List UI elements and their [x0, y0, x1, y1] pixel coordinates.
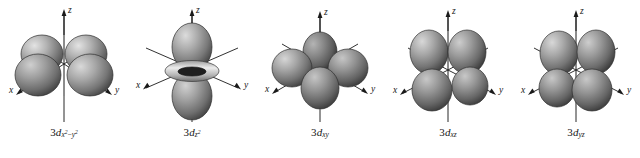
orbital-drawing-3d-xy: x y z [256, 0, 384, 128]
axis-label-z: z [195, 5, 200, 15]
axis-label-x: x [8, 85, 14, 95]
orbital-drawing-3d-xz: x y z [384, 0, 512, 128]
orbital-label-3d-x2-y2: 3dx2−y2 [0, 126, 128, 139]
axis-label-y: y [370, 84, 376, 94]
axis-label-x: x [264, 84, 270, 94]
axis-label-y: y [114, 85, 120, 95]
orbital-drawing-3d-x2-y2: x y z [0, 0, 128, 128]
orbital-drawing-3d-z2: x y z [128, 0, 256, 128]
orbital-lobe [540, 31, 578, 75]
orbital-torus [165, 61, 219, 82]
orbital-label-3d-xy: 3dxy [256, 126, 384, 139]
orbital-label-3d-xz: 3dxz [384, 126, 512, 139]
orbital-panel-3d-xy: x y z 3dxy [256, 0, 384, 158]
orbital-lobe [572, 69, 612, 111]
orbital-panel-3d-xz: x y z 3dxz [384, 0, 512, 158]
axis-label-x: x [392, 85, 398, 95]
orbital-lobe [452, 67, 488, 105]
orbital-lobe [67, 54, 113, 96]
orbital-lobe [577, 30, 615, 74]
orbital-lobe [301, 67, 339, 109]
axis-label-z: z [579, 6, 584, 16]
orbital-drawing-3d-yz: x y z [512, 0, 640, 128]
orbital-lobe [539, 69, 575, 107]
axis-label-y: y [498, 85, 504, 95]
orbital-panel-3d-z2: x y z 3dz2 [128, 0, 256, 158]
orbital-figure: x y z 3dx2−y2 [0, 0, 640, 158]
orbital-lobe [15, 54, 61, 96]
orbital-label-3d-z2: 3dz2 [128, 126, 256, 139]
orbital-label-3d-yz: 3dyz [512, 126, 640, 139]
orbital-panel-3d-x2-y2: x y z 3dx2−y2 [0, 0, 128, 158]
axis-label-y: y [243, 80, 249, 90]
axis-label-x: x [520, 85, 526, 95]
axis-label-z: z [67, 5, 72, 15]
orbital-lobe [410, 30, 448, 74]
axis-label-y: y [626, 85, 632, 95]
axis-label-z: z [451, 6, 456, 16]
axis-label-x: x [135, 80, 141, 90]
orbital-panel-3d-yz: x y z 3dyz [512, 0, 640, 158]
orbital-lobe [412, 69, 452, 111]
axis-label-z: z [323, 7, 328, 17]
